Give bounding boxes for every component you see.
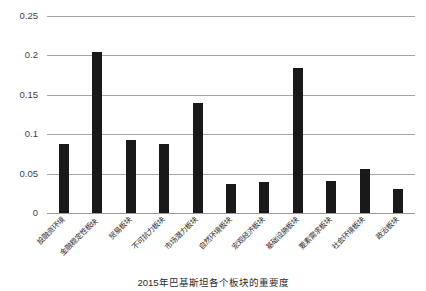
bar	[92, 52, 102, 213]
bar	[360, 169, 370, 213]
bar-series	[47, 16, 415, 213]
x-axis-tick-label: 不可抗力板块	[131, 217, 166, 252]
bar	[326, 181, 336, 213]
y-axis-tick-label: 0.1	[25, 129, 38, 139]
x-axis-tick-label: 市场潜力板块	[164, 217, 199, 252]
x-axis-tick-label: 贸易板块	[108, 216, 133, 241]
x-axis-labels: 投融资环境金融稳定性板块贸易板块不可抗力板块市场潜力板块自然环境板块宏观经济板块…	[47, 213, 415, 273]
x-axis-tick-label: 社会环境板块	[331, 217, 366, 252]
x-axis-tick-label: 政治板块	[375, 216, 400, 241]
y-axis-tick-label: 0.25	[20, 11, 39, 21]
bar	[193, 103, 203, 213]
x-axis-tick-label: 基础设施板块	[265, 217, 300, 252]
bar	[393, 189, 403, 213]
bar	[226, 184, 236, 213]
bar	[126, 140, 136, 213]
y-axis-labels: 00.050.10.150.20.25	[0, 0, 44, 291]
bar	[159, 144, 169, 213]
bar	[259, 182, 269, 213]
x-axis-tick-label: 宏观经济板块	[231, 217, 266, 252]
y-axis-tick-label: 0.15	[20, 90, 39, 100]
x-axis-tick-label: 要素需求板块	[298, 217, 333, 252]
x-axis-tick-label: 自然环境板块	[198, 217, 233, 252]
plot-area	[47, 16, 415, 213]
y-axis-tick-label: 0.2	[25, 50, 38, 60]
bar	[59, 144, 69, 213]
bar	[293, 68, 303, 213]
bar-chart: 00.050.10.150.20.25 投融资环境金融稳定性板块贸易板块不可抗力…	[0, 0, 426, 291]
chart-caption: 2015年巴基斯坦各个板块的重要度	[0, 277, 426, 289]
y-axis-tick-label: 0	[33, 208, 38, 218]
y-axis-tick-label: 0.05	[20, 169, 39, 179]
